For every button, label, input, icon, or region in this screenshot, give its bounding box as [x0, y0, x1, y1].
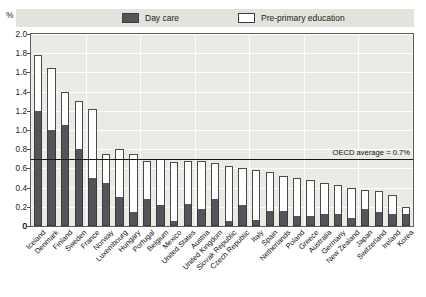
bar-segment-pre-primary: [361, 190, 369, 209]
bar-segment-pre-primary: [375, 191, 383, 212]
bar-column: [129, 154, 137, 226]
bar-column: [225, 166, 233, 226]
bar-segment-day-care: [334, 214, 342, 226]
plot-area: OECD average = 0.7%: [30, 33, 414, 227]
bar-column: [293, 178, 301, 226]
bar-segment-day-care: [156, 205, 164, 226]
bar-segment-pre-primary: [347, 188, 355, 219]
bar-column: [361, 190, 369, 226]
bar-segment-day-care: [61, 125, 69, 226]
bar-segment-day-care: [170, 221, 178, 226]
bar-segment-day-care: [293, 216, 301, 226]
gridline: [86, 34, 87, 226]
bar-column: [402, 207, 410, 226]
bar-segment-day-care: [88, 178, 96, 226]
legend-label-day-care: Day care: [145, 13, 179, 23]
bar-segment-day-care: [115, 197, 123, 226]
bar-segment-day-care: [238, 205, 246, 226]
bar-segment-pre-primary: [266, 172, 274, 210]
bar-segment-pre-primary: [238, 168, 246, 204]
bar-segment-day-care: [184, 204, 192, 226]
bar-segment-day-care: [47, 130, 55, 226]
bar-segment-pre-primary: [211, 163, 219, 199]
bar-column: [266, 172, 274, 226]
bar-segment-day-care: [279, 211, 287, 226]
bar-column: [334, 185, 342, 226]
bar-segment-pre-primary: [279, 176, 287, 211]
bar-segment-pre-primary: [334, 185, 342, 214]
bar-segment-day-care: [252, 220, 260, 226]
bar-column: [279, 176, 287, 226]
bar-segment-day-care: [143, 199, 151, 226]
bar-column: [115, 149, 123, 226]
legend-item-pre-primary: Pre-primary education: [238, 13, 345, 23]
y-axis-tick-label: 0.8: [0, 145, 27, 154]
bar-segment-pre-primary: [88, 109, 96, 178]
bar-segment-day-care: [266, 211, 274, 226]
bar-segment-pre-primary: [225, 166, 233, 222]
bar-segment-pre-primary: [115, 149, 123, 197]
y-axis-tick-label: 2.0: [0, 30, 27, 39]
gridline: [358, 34, 359, 226]
bar-segment-pre-primary: [293, 178, 301, 216]
y-axis-tick-label: 0.2: [0, 202, 27, 211]
bar-column: [75, 101, 83, 226]
bar-segment-day-care: [320, 214, 328, 226]
legend-label-pre-primary: Pre-primary education: [261, 13, 345, 23]
bar-segment-pre-primary: [402, 207, 410, 215]
gridline: [195, 34, 196, 226]
bar-segment-day-care: [102, 183, 110, 226]
bar-segment-pre-primary: [388, 195, 396, 214]
bar-column: [347, 188, 355, 226]
bar-segment-pre-primary: [143, 161, 151, 199]
gridline: [249, 34, 250, 226]
bar-column: [88, 109, 96, 226]
y-axis-zero-label: 0: [0, 222, 27, 231]
bar-segment-day-care: [129, 212, 137, 226]
bar-segment-pre-primary: [252, 170, 260, 220]
bar-column: [156, 159, 164, 226]
bar-segment-pre-primary: [184, 161, 192, 204]
y-axis-unit-label: %: [6, 10, 14, 20]
bar-segment-pre-primary: [75, 101, 83, 149]
bar-segment-day-care: [388, 214, 396, 226]
gridline: [31, 34, 413, 35]
y-axis-tick-label: 1.4: [0, 87, 27, 96]
bar-column: [184, 161, 192, 226]
gridline: [31, 53, 413, 54]
bar-segment-day-care: [211, 199, 219, 226]
gridline: [140, 34, 141, 226]
bar-column: [252, 170, 260, 226]
bar-segment-day-care: [306, 216, 314, 226]
bar-segment-day-care: [225, 221, 233, 226]
bar-segment-pre-primary: [197, 161, 205, 209]
bar-column: [388, 195, 396, 226]
oecd-average-line: [31, 159, 413, 160]
x-axis-category-labels: IcelandDenmarkFinlandSwedenFranceNorwayL…: [30, 228, 414, 290]
bar-column: [47, 68, 55, 226]
bar-column: [143, 161, 151, 226]
bar-segment-day-care: [34, 111, 42, 226]
bar-segment-day-care: [361, 209, 369, 226]
bar-segment-pre-primary: [320, 183, 328, 215]
bar-segment-day-care: [347, 218, 355, 226]
bar-column: [211, 163, 219, 226]
y-axis-tick-label: 1.6: [0, 68, 27, 77]
bar-segment-pre-primary: [47, 68, 55, 130]
bar-segment-pre-primary: [170, 162, 178, 222]
bar-segment-day-care: [75, 149, 83, 226]
gridline: [31, 72, 413, 73]
y-axis-tick-label: 0.4: [0, 183, 27, 192]
bar-segment-day-care: [375, 212, 383, 226]
y-axis-tick-label: 0.6: [0, 164, 27, 173]
y-axis-tick-label: 1.8: [0, 49, 27, 58]
bar-column: [320, 183, 328, 226]
y-axis-tick-label: 1.2: [0, 106, 27, 115]
bar-segment-pre-primary: [129, 154, 137, 212]
bar-column: [34, 55, 42, 226]
bar-segment-pre-primary: [34, 55, 42, 111]
bar-column: [102, 154, 110, 226]
gridline: [31, 92, 413, 93]
bar-segment-pre-primary: [61, 92, 69, 126]
gridline: [304, 34, 305, 226]
